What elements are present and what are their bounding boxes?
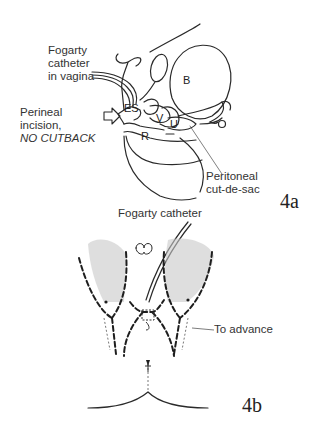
organ-label-vagina: V bbox=[156, 112, 163, 124]
organ-label-external-sphincter: ES bbox=[124, 102, 139, 114]
label-line: Peritoneal bbox=[206, 170, 260, 183]
label-line: NO CUTBACK bbox=[20, 132, 95, 145]
panel-label-4a: 4a bbox=[280, 190, 299, 213]
fogarty-catheter-label: Fogarty catheter bbox=[118, 207, 202, 220]
label-line: cut-de-sac bbox=[206, 183, 260, 196]
label-line: incision, bbox=[20, 119, 95, 132]
peritoneal-cutdesac-label: Peritoneal cut-de-sac bbox=[206, 170, 260, 196]
label-line: Perineal bbox=[20, 106, 95, 119]
organ-label-bladder: B bbox=[183, 74, 190, 86]
to-advance-label: To advance bbox=[214, 323, 273, 336]
perineal-incision-label: Perineal incision, NO CUTBACK bbox=[20, 106, 95, 145]
label-line: in vagina bbox=[48, 70, 94, 83]
label-line: Fogarty bbox=[48, 44, 94, 57]
panel-label-4b: 4b bbox=[242, 394, 262, 417]
organ-label-rectum: R bbox=[141, 130, 149, 142]
label-line: catheter bbox=[48, 57, 94, 70]
organ-label-uterus: U bbox=[170, 118, 178, 130]
catheter-in-vagina-label: Fogarty catheter in vagina bbox=[48, 44, 94, 83]
